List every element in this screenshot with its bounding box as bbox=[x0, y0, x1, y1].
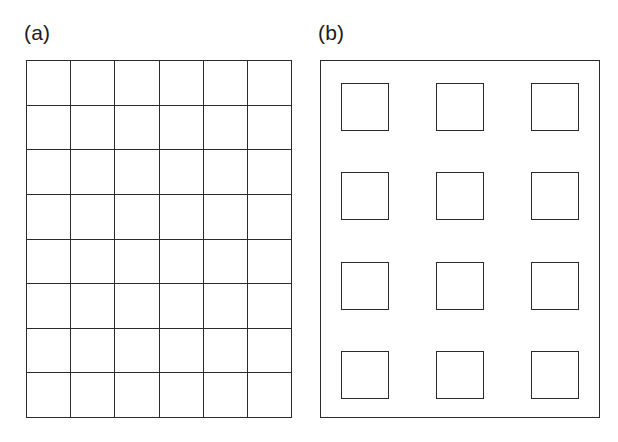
grid-cell bbox=[71, 61, 115, 106]
grid-cell bbox=[71, 284, 115, 329]
grid-cell bbox=[115, 106, 159, 151]
grid-cell bbox=[27, 284, 71, 329]
grid-cell bbox=[115, 373, 159, 418]
grid-cell bbox=[71, 150, 115, 195]
unit-square bbox=[436, 262, 484, 310]
grid-cell bbox=[248, 329, 292, 374]
grid-cell bbox=[27, 150, 71, 195]
grid-cell bbox=[160, 106, 204, 151]
grid-cell bbox=[248, 150, 292, 195]
unit-square bbox=[531, 351, 579, 399]
grid-cell bbox=[115, 195, 159, 240]
grid-cell bbox=[160, 284, 204, 329]
grid-cell bbox=[160, 195, 204, 240]
grid-cell bbox=[115, 150, 159, 195]
grid-cell bbox=[160, 373, 204, 418]
grid-cell bbox=[27, 329, 71, 374]
grid-cell bbox=[27, 240, 71, 285]
grid-cell bbox=[115, 61, 159, 106]
unit-square bbox=[341, 172, 389, 220]
grid-cell bbox=[204, 373, 248, 418]
grid-cell bbox=[160, 240, 204, 285]
grid-cell bbox=[71, 195, 115, 240]
grid-cell bbox=[204, 61, 248, 106]
unit-square bbox=[436, 172, 484, 220]
panel-b-square-array bbox=[341, 83, 579, 399]
grid-cell bbox=[248, 106, 292, 151]
unit-square bbox=[341, 83, 389, 131]
grid-cell bbox=[160, 329, 204, 374]
grid-cell bbox=[248, 240, 292, 285]
grid-cell bbox=[115, 240, 159, 285]
panel-b-label: (b) bbox=[318, 22, 344, 43]
unit-square bbox=[436, 351, 484, 399]
grid-cell bbox=[204, 284, 248, 329]
unit-square bbox=[531, 262, 579, 310]
figure-canvas: (a) (b) bbox=[0, 0, 618, 442]
grid-cell bbox=[71, 106, 115, 151]
grid-cell bbox=[27, 195, 71, 240]
grid-cell bbox=[204, 195, 248, 240]
grid-cell bbox=[115, 284, 159, 329]
panel-b-frame bbox=[320, 60, 600, 418]
unit-square bbox=[341, 262, 389, 310]
panel-a-label: (a) bbox=[24, 22, 50, 43]
unit-square bbox=[341, 351, 389, 399]
grid-cell bbox=[115, 329, 159, 374]
grid-cell bbox=[204, 106, 248, 151]
grid-cell bbox=[71, 240, 115, 285]
unit-square bbox=[531, 172, 579, 220]
grid-cell bbox=[160, 150, 204, 195]
grid-cell bbox=[204, 240, 248, 285]
grid-cell bbox=[248, 61, 292, 106]
grid-cell bbox=[204, 150, 248, 195]
unit-square bbox=[531, 83, 579, 131]
grid-cell bbox=[71, 329, 115, 374]
grid-cell bbox=[248, 373, 292, 418]
grid-cell bbox=[248, 195, 292, 240]
grid-cell bbox=[204, 329, 248, 374]
unit-square bbox=[436, 83, 484, 131]
panel-a-grid bbox=[26, 60, 292, 418]
grid-cell bbox=[160, 61, 204, 106]
grid-cell bbox=[248, 284, 292, 329]
grid-cell bbox=[27, 61, 71, 106]
grid-cell bbox=[27, 106, 71, 151]
grid-cell bbox=[27, 373, 71, 418]
grid-cell bbox=[71, 373, 115, 418]
